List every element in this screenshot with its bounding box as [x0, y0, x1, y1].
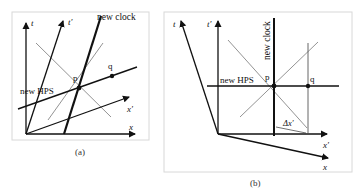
x-axis: [218, 134, 328, 158]
panel-b: t t′ new clock new HPS p q Δx′ x′ x (b): [164, 12, 352, 188]
panel-a: t t′ new clock new HPS p q x′ x (a): [12, 12, 149, 157]
t-label: t: [173, 19, 176, 29]
x-label: x: [128, 122, 133, 132]
new-clock-label: new clock: [262, 21, 272, 60]
q-label: q: [310, 74, 315, 84]
new-hps-label: new HPS: [20, 86, 54, 96]
event-p-dot: [272, 84, 277, 89]
x-prime-axis: [26, 97, 129, 134]
panel-a-frame: [12, 12, 149, 140]
t-label: t: [31, 18, 34, 28]
caption-a: (a): [75, 147, 85, 157]
delta-x-prime-label: Δx′: [282, 118, 294, 128]
t-axis: [181, 21, 218, 134]
x-prime-label: x′: [322, 140, 330, 150]
x-prime-label: x′: [126, 104, 134, 114]
event-p-dot: [77, 86, 82, 91]
event-q-dot: [306, 84, 310, 88]
spacetime-diagrams: t t′ new clock new HPS p q x′ x (a) t: [0, 0, 353, 192]
t-prime-axis: [26, 21, 63, 134]
q-label: q: [108, 61, 113, 71]
p-label: p: [265, 72, 270, 82]
t-prime-label: t′: [68, 17, 74, 27]
p-label: p: [73, 73, 78, 83]
t-prime-label: t′: [207, 19, 213, 29]
new-clock-line: [64, 16, 101, 134]
new-hps-label: new HPS: [220, 75, 254, 85]
x-label: x: [322, 162, 327, 172]
caption-b: (b): [250, 178, 261, 188]
new-clock-label: new clock: [97, 12, 136, 22]
event-q-dot: [110, 74, 114, 78]
